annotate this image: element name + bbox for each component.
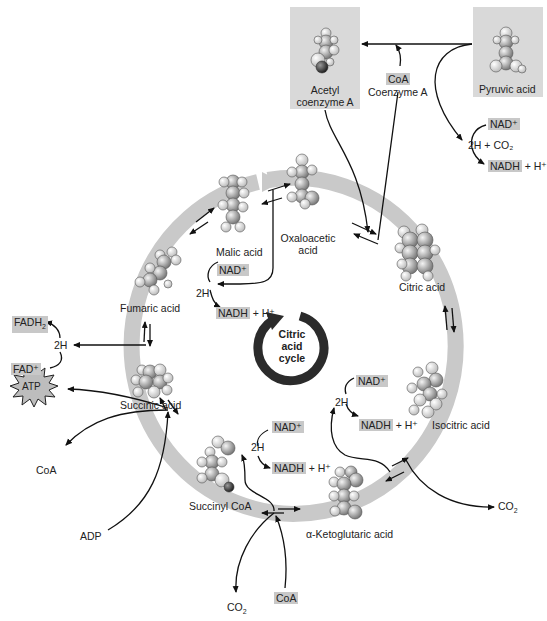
adp-label: ADP [80, 530, 102, 542]
malic-nad-label: NAD⁺ [217, 264, 249, 276]
fad-label: FAD⁺ [11, 363, 41, 375]
malic-acid-label: Malic acid [216, 246, 263, 258]
isocitric-co2-label: CO2 [498, 500, 518, 517]
fumaric-acid-label: Fumaric acid [120, 302, 180, 314]
succinyl-coa-label: Succinyl CoA [189, 500, 251, 512]
coenzyme-a-label: Coenzyme A [368, 86, 428, 98]
succinyl-coa-input-label: CoA [274, 592, 298, 604]
fadh2-label: FADH2 [12, 316, 48, 333]
malic-acid-molecule-icon [218, 175, 249, 232]
succinic-coa-label: CoA [36, 464, 56, 476]
isocitric-2h-label: 2H [335, 396, 348, 408]
pyruvate-nad-label: NAD⁺ [488, 118, 520, 130]
malic-2h-label: 2H [196, 287, 209, 299]
isocitric-acid-label: Isocitric acid [432, 419, 490, 431]
citric-acid-cycle-center-label: Citric acid cycle [262, 328, 322, 364]
coa-input-label: CoA [386, 73, 410, 85]
acetyl-coa-label: Acetyl coenzyme A [293, 84, 357, 108]
fumaric-2h-label: 2H [54, 339, 67, 351]
pyruvic-acid-label: Pyruvic acid [479, 83, 536, 95]
citric-acid-label: Citric acid [399, 281, 445, 293]
succinyl-co2-label: CO2 [227, 601, 247, 618]
isocitric-nadh-label: NADH + H⁺ [359, 419, 418, 431]
alpha-ketoglutaric-acid-label: α-Ketoglutaric acid [306, 528, 393, 540]
succinyl-nadh-label: NADH + H⁺ [272, 462, 331, 474]
alpha-ketoglutaric-acid-molecule-icon [329, 466, 363, 519]
atp-label: ATP [22, 381, 41, 393]
pyruvate-2h-co2-label: 2H + CO₂ [468, 139, 513, 151]
isocitric-nad-label: NAD⁺ [356, 375, 388, 387]
succinyl-2h-label: 2H [251, 441, 264, 453]
succinic-acid-molecule-icon [131, 364, 173, 398]
succinic-acid-label: Succinic acid [120, 399, 181, 411]
malic-nadh-label: NADH + H⁺ [216, 307, 275, 319]
succinyl-nad-label: NAD⁺ [272, 421, 304, 433]
oxaloacetic-acid-label: Oxaloacetic acid [278, 232, 338, 256]
pyruvate-nadh-label: NADH + H⁺ [488, 160, 547, 172]
